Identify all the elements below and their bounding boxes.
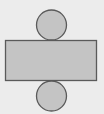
bottom-base-circle	[37, 81, 67, 111]
lateral-surface-rectangle	[6, 41, 97, 81]
cylinder-net-diagram	[0, 0, 104, 114]
top-base-circle	[37, 10, 67, 40]
